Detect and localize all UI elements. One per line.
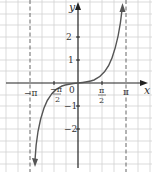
y-tick-neg-2: −2 <box>64 124 77 134</box>
y-tick-2: 2 <box>66 32 72 42</box>
x-tick-half-pi-denominator: 2 <box>99 96 104 105</box>
y-tick-1: 1 <box>68 55 74 65</box>
x-tick-neg-half-pi-denominator: 2 <box>55 95 60 104</box>
origin-label: 0 <box>69 85 75 95</box>
x-tick-neg-pi: −π <box>24 88 38 98</box>
x-tick-half-pi-numerator: π <box>99 86 104 95</box>
x-tick-pi: π <box>123 87 129 97</box>
y-axis-arrow-icon <box>75 2 81 10</box>
x-axis-label: x <box>144 84 151 97</box>
y-tick-neg-1: −1 <box>64 101 77 111</box>
y-axis-label: y <box>68 1 76 14</box>
x-tick-neg-half-pi-numerator: −π <box>50 85 62 94</box>
curve-arrow-down-icon <box>32 158 38 167</box>
function-graph: y x 2 1 −1 −2 0 −π −π 2 π 2 π <box>0 0 152 172</box>
grid <box>0 0 152 172</box>
curve-arrow-up-icon <box>120 3 126 12</box>
